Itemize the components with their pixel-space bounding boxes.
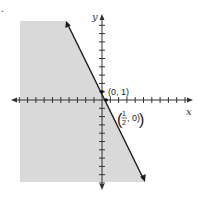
point-x-intercept [104, 98, 108, 102]
inequality-graph: . [0, 0, 199, 198]
corner-mark: . [1, 3, 4, 14]
svg-text:): ) [139, 111, 144, 128]
svg-text:1: 1 [122, 110, 126, 117]
shaded-region [20, 21, 145, 182]
y-axis-label: y [91, 11, 98, 22]
label-y-intercept: (0, 1) [108, 87, 129, 97]
x-axis-label: x [186, 106, 192, 117]
label-x-intercept: ( 1 2 , 0) ) [117, 110, 144, 128]
point-y-intercept [100, 90, 104, 94]
svg-text:2: 2 [122, 119, 126, 126]
